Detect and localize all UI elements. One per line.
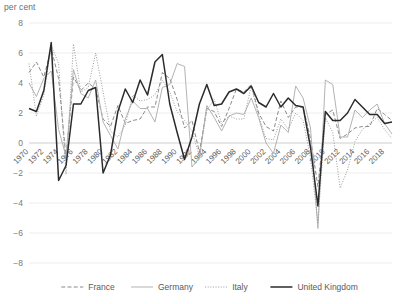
x-axis-tick-label: 2012 (323, 147, 342, 166)
x-axis-tick-label: 1978 (71, 147, 90, 166)
line-chart-plot: 86420−2−4−6−8 19701972197419761978198019… (0, 0, 405, 304)
y-axis-tick-label: 6 (18, 48, 23, 58)
data-series-group (29, 43, 392, 229)
y-axis-tick-label: −6 (13, 228, 23, 238)
x-axis-tick-label: 2014 (337, 147, 356, 166)
x-axis-tick-label: 2018 (367, 147, 386, 166)
x-axis-tick-label: 1984 (115, 147, 134, 166)
x-axis-tick-label: 2006 (278, 147, 297, 166)
y-axis-tick-label: −4 (13, 198, 23, 208)
x-axis-tick-label: 2004 (263, 147, 282, 166)
gridlines-group (29, 23, 392, 263)
series-line-united-kingdom (29, 43, 392, 207)
series-line-italy (29, 44, 392, 223)
x-axis-tick-label: 1990 (160, 147, 179, 166)
x-axis-tick-label: 2008 (293, 147, 312, 166)
y-axis-tick-label: 8 (18, 18, 23, 28)
chart-legend: FranceGermanyItalyUnited Kingdom (61, 282, 358, 292)
x-axis-tick-label: 2016 (352, 147, 371, 166)
x-axis-tick-label: 1972 (26, 147, 45, 166)
legend-label-france[interactable]: France (88, 282, 115, 292)
y-axis-tick-label: 0 (18, 138, 23, 148)
y-axis-tick-label: 4 (18, 78, 23, 88)
legend-label-united-kingdom[interactable]: United Kingdom (297, 282, 357, 292)
x-axis-tick-label: 1988 (145, 147, 164, 166)
y-axis-tick-label: −2 (13, 168, 23, 178)
x-axis-tick-label: 1986 (130, 147, 149, 166)
x-axis-tick-label: 1998 (219, 147, 238, 166)
y-axis-tick-labels: 86420−2−4−6−8 (13, 18, 23, 268)
chart-container: per cent 86420−2−4−6−8 19701972197419761… (0, 0, 405, 304)
y-axis-tick-label: 2 (18, 108, 23, 118)
x-axis-tick-label: 1996 (204, 147, 223, 166)
y-axis-tick-label: −8 (13, 258, 23, 268)
x-axis-tick-label: 2002 (249, 147, 268, 166)
x-axis-tick-label: 1970 (11, 147, 30, 166)
x-axis-tick-label: 2000 (234, 147, 253, 166)
legend-label-italy[interactable]: Italy (232, 282, 248, 292)
legend-label-germany[interactable]: Germany (158, 282, 194, 292)
